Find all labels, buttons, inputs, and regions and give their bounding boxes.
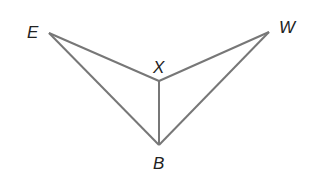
segment-ex xyxy=(49,33,159,81)
label-b: B xyxy=(153,154,164,173)
label-e: E xyxy=(27,23,39,42)
geometry-diagram: E W X B xyxy=(0,0,319,188)
segment-wb xyxy=(159,32,269,145)
segment-xw xyxy=(159,32,269,81)
label-x: X xyxy=(152,58,165,77)
label-w: W xyxy=(279,18,297,37)
segment-eb xyxy=(49,33,159,145)
